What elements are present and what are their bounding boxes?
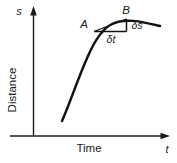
y-axis-arrowhead-icon: [30, 6, 37, 16]
delta-s-label: δs: [131, 19, 143, 31]
point-a-label: A: [79, 18, 88, 30]
x-axis-title: Time: [76, 142, 101, 154]
point-b-label: B: [122, 4, 130, 16]
y-axis-variable-label: s: [16, 5, 22, 17]
x-axis-variable-label: t: [165, 143, 169, 155]
chord-a-to-b: [94, 19, 127, 32]
x-axis-arrowhead-icon: [161, 133, 171, 140]
y-axis-title: Distance: [6, 68, 18, 113]
distance-time-graph-figure: s t Time Distance A B δt δs: [0, 0, 177, 163]
figure-canvas: s t Time Distance A B δt δs: [0, 0, 177, 163]
delta-t-label: δt: [107, 33, 117, 45]
